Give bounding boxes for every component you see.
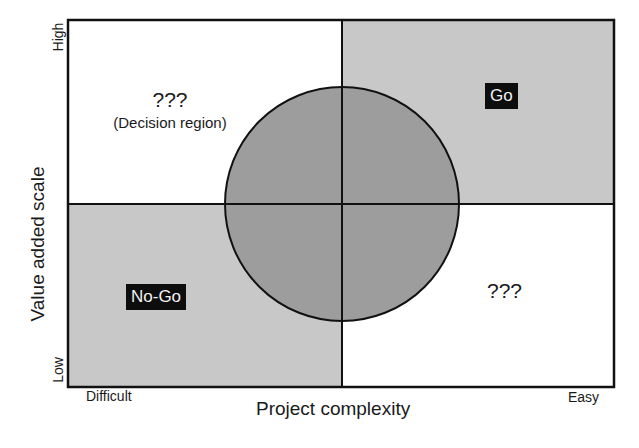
top-left-quadrant-title: ???	[100, 88, 240, 112]
no-go-label: No-Go	[126, 284, 186, 310]
x-axis-max-label: Easy	[568, 389, 599, 405]
x-axis-min-label: Difficult	[86, 388, 132, 404]
y-axis-title: Value added scale	[27, 167, 49, 322]
bottom-right-quadrant-title: ???	[487, 279, 522, 303]
y-axis-max-label: High	[50, 23, 66, 52]
x-axis-title: Project complexity	[256, 398, 410, 420]
quadrant-diagram	[0, 0, 639, 448]
top-left-quadrant-subtitle: (Decision region)	[95, 114, 245, 131]
go-label: Go	[485, 83, 518, 109]
y-axis-min-label: Low	[50, 357, 66, 383]
